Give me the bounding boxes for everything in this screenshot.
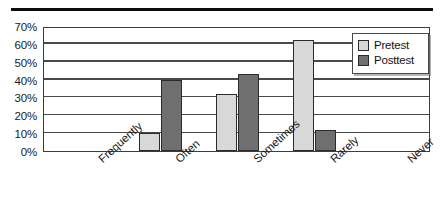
x-label-often: Often — [173, 156, 181, 165]
top-rule-divider — [11, 8, 433, 11]
bar-posttest-often — [161, 80, 182, 151]
y-tick-label: 50% — [15, 57, 37, 69]
y-tick-label: 70% — [15, 21, 37, 33]
bar-chart: 0%10%20%30%40%50%60%70% FrequentlyOftenS… — [0, 0, 440, 211]
bar-posttest-sometimes — [238, 74, 259, 151]
y-tick-label: 20% — [15, 110, 37, 122]
y-tick-label: 40% — [15, 75, 37, 87]
y-tick-label: 30% — [15, 92, 37, 104]
y-tick-label: 0% — [21, 146, 37, 158]
x-label-rarely: Rarely — [328, 156, 336, 165]
legend-label-pretest: Pretest — [374, 40, 409, 52]
x-label-sometimes: Sometimes — [251, 156, 259, 165]
x-axis-category-labels: FrequentlyOftenSometimesRarelyNever — [43, 152, 430, 211]
x-label-frequently: Frequently — [96, 156, 104, 165]
legend-swatch-pretest-icon — [358, 40, 369, 51]
legend-item-posttest: Posttest — [358, 53, 423, 68]
y-tick-label: 60% — [15, 39, 37, 51]
bar-pretest-often — [139, 133, 160, 151]
y-tick-label: 10% — [15, 128, 37, 140]
legend-item-pretest: Pretest — [358, 38, 423, 53]
legend-swatch-posttest-icon — [358, 55, 369, 66]
bar-posttest-rarely — [315, 130, 336, 151]
bar-pretest-rarely — [293, 40, 314, 151]
bar-pretest-sometimes — [216, 94, 237, 151]
legend: Pretest Posttest — [352, 33, 429, 74]
y-axis: 0%10%20%30%40%50%60%70% — [0, 27, 41, 152]
x-label-never: Never — [405, 156, 413, 165]
legend-label-posttest: Posttest — [374, 55, 414, 67]
